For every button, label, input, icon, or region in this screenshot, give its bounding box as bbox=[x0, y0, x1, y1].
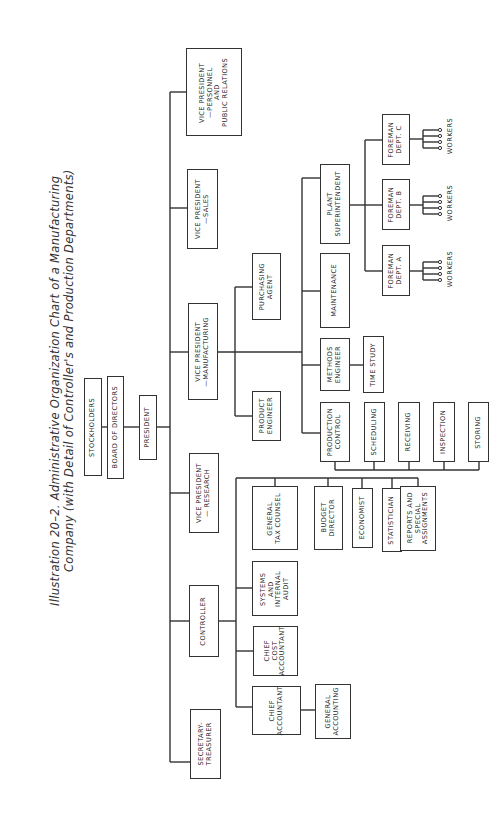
node-label: PRODUCT ENGINEER bbox=[259, 397, 274, 434]
node-vp-sales: VICE PRESIDENT —SALES bbox=[187, 169, 218, 249]
node-systems-internal-audit: SYSTEMS AND INTERNAL AUDIT bbox=[252, 561, 298, 616]
node-foreman-dept-a: FOREMAN DEPT. A bbox=[382, 245, 410, 296]
node-storing: STORING bbox=[468, 402, 489, 462]
node-label: GENERAL TAX COUNSEL bbox=[267, 493, 282, 544]
node-vp-personnel: VICE PRESIDENT —PERSONNEL AND PUBLIC REL… bbox=[186, 48, 242, 136]
node-label: VICE PRESIDENT —MANUFACTURING bbox=[195, 317, 210, 387]
node-maintenance: MAINTENANCE bbox=[320, 253, 350, 328]
node-label: VICE PRESIDENT — RESEARCH bbox=[196, 463, 211, 523]
node-time-study: TIME STUDY bbox=[363, 336, 384, 393]
workers-label-dept-b: WORKERS bbox=[446, 185, 454, 221]
node-label: BOARD OF DIRECTORS bbox=[112, 386, 120, 468]
node-label: STORING bbox=[475, 416, 483, 449]
node-label: PRESIDENT bbox=[144, 407, 152, 448]
node-label: PLANT SUPERINTENDENT bbox=[327, 171, 342, 237]
node-label: PURCHASING AGENT bbox=[259, 263, 274, 310]
node-secretary-treasurer: SECRETARY- TREASURER bbox=[190, 709, 221, 779]
node-label: PRODUCTION CONTROL bbox=[327, 408, 342, 456]
node-label: FOREMAN DEPT. A bbox=[388, 253, 403, 289]
node-label: STATISTICIAN bbox=[388, 496, 396, 545]
node-label: CONTROLLER bbox=[200, 597, 208, 646]
node-label: SYSTEMS AND INTERNAL AUDIT bbox=[260, 571, 290, 607]
node-reports-special-assignments: REPORTS AND SPECIAL ASSIGNMENTS bbox=[400, 486, 436, 551]
node-methods-engineer: METHODS ENGINEER bbox=[320, 338, 350, 391]
node-controller: CONTROLLER bbox=[189, 585, 219, 657]
workers-label-dept-a: WORKERS bbox=[446, 251, 454, 287]
node-statistician: STATISTICIAN bbox=[382, 488, 402, 552]
node-board-of-directors: BOARD OF DIRECTORS bbox=[107, 376, 124, 479]
node-vp-manufacturing: VICE PRESIDENT —MANUFACTURING bbox=[188, 303, 218, 400]
node-label: SECRETARY- TREASURER bbox=[198, 722, 213, 766]
node-label: MAINTENANCE bbox=[331, 264, 339, 317]
node-label: TIME STUDY bbox=[370, 343, 378, 387]
node-label: REPORTS AND SPECIAL ASSIGNMENTS bbox=[407, 492, 430, 544]
node-label: VICE PRESIDENT —PERSONNEL AND PUBLIC REL… bbox=[199, 58, 229, 127]
node-president: PRESIDENT bbox=[139, 395, 157, 460]
node-purchasing-agent: PURCHASING AGENT bbox=[252, 253, 281, 320]
node-plant-superintendent: PLANT SUPERINTENDENT bbox=[320, 164, 350, 244]
node-foreman-dept-b: FOREMAN DEPT. B bbox=[382, 179, 410, 230]
node-label: GENERAL ACCOUNTING bbox=[325, 687, 340, 736]
node-chief-cost-accountant: CHIEF COST ACCOUNTANT bbox=[253, 626, 298, 676]
node-general-tax-counsel: GENERAL TAX COUNSEL bbox=[252, 486, 298, 550]
node-chief-accountant: CHIEF ACCOUNTANT bbox=[252, 686, 301, 735]
node-production-control: PRODUCTION CONTROL bbox=[320, 402, 350, 462]
node-label: INSPECTION bbox=[440, 410, 448, 454]
node-label: RECEIVING bbox=[405, 412, 413, 452]
node-label: FOREMAN DEPT. C bbox=[388, 122, 403, 158]
workers-label-dept-c: WORKERS bbox=[446, 118, 454, 154]
node-label: BUDGET DIRECTOR bbox=[321, 499, 336, 536]
node-scheduling: SCHEDULING bbox=[364, 402, 385, 462]
node-foreman-dept-c: FOREMAN DEPT. C bbox=[382, 114, 410, 165]
node-product-engineer: PRODUCT ENGINEER bbox=[252, 391, 281, 441]
node-label: SCHEDULING bbox=[371, 408, 379, 455]
node-budget-director: BUDGET DIRECTOR bbox=[314, 486, 343, 550]
node-inspection: INSPECTION bbox=[433, 402, 455, 462]
node-label: CHIEF ACCOUNTANT bbox=[269, 686, 284, 736]
node-label: VICE PRESIDENT —SALES bbox=[195, 179, 210, 239]
node-label: ECONOMIST bbox=[359, 496, 367, 540]
node-receiving: RECEIVING bbox=[398, 402, 420, 462]
node-general-accounting: GENERAL ACCOUNTING bbox=[315, 684, 351, 739]
node-label: STOCKHOLDERS bbox=[89, 398, 97, 457]
node-label: FOREMAN DEPT. B bbox=[388, 187, 403, 223]
node-label: METHODS ENGINEER bbox=[327, 346, 342, 383]
node-vp-research: VICE PRESIDENT — RESEARCH bbox=[189, 453, 219, 533]
node-economist: ECONOMIST bbox=[352, 488, 373, 548]
node-stockholders: STOCKHOLDERS bbox=[84, 378, 102, 476]
node-label: CHIEF COST ACCOUNTANT bbox=[264, 626, 287, 676]
